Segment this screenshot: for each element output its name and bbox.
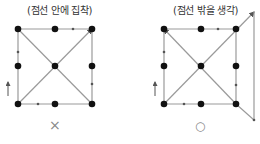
correct-mark-icon: ○ — [195, 119, 205, 133]
wrong-mark-icon: × — [49, 117, 61, 133]
nine-dot-puzzle-diagram — [0, 0, 260, 144]
right-panel-lines — [164, 12, 254, 120]
